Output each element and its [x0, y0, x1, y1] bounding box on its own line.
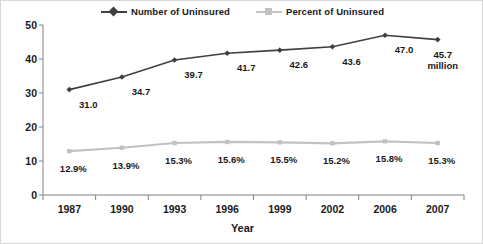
y-axis-tick-label: 30: [11, 87, 37, 99]
data-label: 42.6: [290, 59, 309, 70]
data-label: 15.3%: [428, 155, 455, 166]
data-label: 34.7: [132, 86, 151, 97]
data-label: 15.3%: [165, 155, 192, 166]
data-point-marker: [172, 57, 178, 63]
data-label: 45.7million: [427, 49, 458, 71]
data-point-marker: [119, 74, 125, 80]
x-axis-tick-label: 2007: [426, 203, 449, 215]
data-point-marker: [435, 37, 441, 43]
data-label: 15.8%: [376, 153, 403, 164]
x-axis-title: Year: [1, 222, 483, 234]
data-point-marker: [277, 47, 283, 53]
y-axis-tick-label: 10: [11, 155, 37, 167]
data-point-marker: [278, 140, 282, 144]
data-label: 39.7: [184, 69, 203, 80]
data-point-marker: [382, 32, 388, 38]
data-label: 15.6%: [218, 154, 245, 165]
data-label: 15.5%: [270, 154, 297, 165]
y-axis-tick-label: 50: [11, 19, 37, 31]
data-label: 15.2%: [323, 155, 350, 166]
x-axis-tick-label: 1996: [216, 203, 239, 215]
x-axis-tick-label: 2006: [373, 203, 396, 215]
data-point-marker: [383, 139, 387, 143]
data-point-marker: [172, 141, 176, 145]
data-label-unit: million: [427, 60, 458, 71]
data-point-marker: [67, 149, 71, 153]
data-point-marker: [330, 141, 334, 145]
y-axis-tick-label: 40: [11, 53, 37, 65]
data-point-marker: [330, 44, 336, 50]
data-label: 31.0: [79, 99, 98, 110]
data-label: 47.0: [395, 44, 414, 55]
data-point-marker: [435, 141, 439, 145]
y-axis-tick-label: 20: [11, 121, 37, 133]
data-label: 41.7: [237, 62, 256, 73]
data-label: 13.9%: [112, 160, 139, 171]
y-axis-tick-label: 0: [11, 189, 37, 201]
uninsured-trend-chart: Number of Uninsured Percent of Uninsured…: [0, 0, 483, 244]
data-label: 12.9%: [60, 163, 87, 174]
data-point-marker: [120, 146, 124, 150]
data-point-marker: [67, 87, 73, 93]
data-point-marker: [225, 140, 229, 144]
data-point-marker: [224, 50, 230, 56]
x-axis-tick-label: 2002: [321, 203, 344, 215]
x-axis-tick-label: 1987: [58, 203, 81, 215]
x-axis-tick-label: 1990: [110, 203, 133, 215]
x-axis-tick-label: 1993: [163, 203, 186, 215]
data-label: 43.6: [342, 56, 361, 67]
x-axis-tick-label: 1999: [268, 203, 291, 215]
series-line-percent: [69, 141, 437, 151]
